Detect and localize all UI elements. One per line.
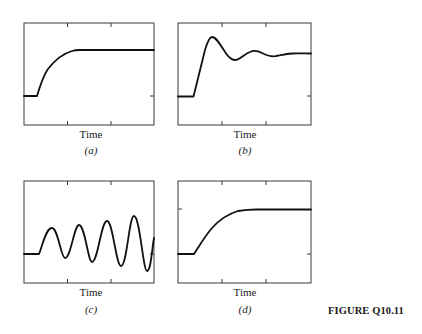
figure-caption: FIGURE Q10.11 [328, 305, 404, 316]
panel-a-xlabel: Time [61, 128, 121, 140]
figure-canvas [0, 0, 422, 334]
panel-c-frame [24, 181, 154, 283]
panel-d-sublabel: (d) [225, 303, 265, 315]
panel-c-xlabel: Time [61, 286, 121, 298]
panel-d-frame [178, 181, 311, 283]
panel-b-frame [178, 23, 311, 125]
curve-d [178, 210, 311, 255]
panel-b-sublabel: (b) [225, 144, 265, 156]
panel-d-xlabel: Time [215, 286, 275, 298]
panel-c-sublabel: (c) [71, 303, 111, 315]
curve-a [24, 50, 154, 96]
curve-b [178, 37, 311, 97]
panel-a-frame [24, 23, 154, 125]
panel-b-xlabel: Time [215, 128, 275, 140]
curve-c [24, 216, 154, 271]
panel-a-sublabel: (a) [71, 144, 111, 156]
